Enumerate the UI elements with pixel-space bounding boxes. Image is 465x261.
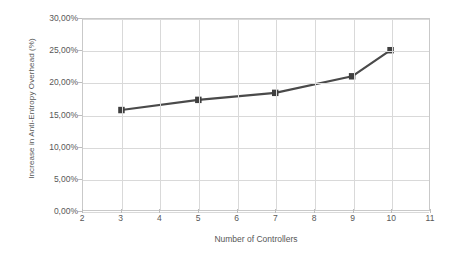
x-axis-tick-label: 8 (312, 213, 317, 223)
gridline-horizontal (83, 148, 429, 149)
gridline-horizontal (83, 51, 429, 52)
data-series-line (83, 19, 429, 210)
gridline-horizontal (83, 83, 429, 84)
x-axis-tick-mark (121, 209, 122, 213)
gridline-vertical (160, 19, 161, 210)
x-axis-tick-label: 5 (196, 213, 201, 223)
gridline-vertical (238, 19, 239, 210)
x-axis-tick-label: 4 (157, 213, 162, 223)
gridline-vertical (392, 19, 393, 210)
x-axis-title: Number of Controllers (82, 234, 430, 244)
y-axis-tick-label: 25,00% (34, 45, 78, 55)
y-axis-tick-label: 30,00% (34, 13, 78, 23)
y-axis-tick-label: 0,00% (34, 206, 78, 216)
y-axis-tick-label: 20,00% (34, 77, 78, 87)
chart-container: Increase in Anti-Entropy Overhead (%) 0,… (0, 0, 465, 261)
x-axis-tick-mark (198, 209, 199, 213)
gridline-vertical (276, 19, 277, 210)
x-axis-tick-mark (391, 209, 392, 213)
x-axis-tick-label: 7 (273, 213, 278, 223)
y-axis-tick-label: 10,00% (34, 142, 78, 152)
x-axis-tick-label: 3 (118, 213, 123, 223)
data-point-marker (272, 90, 278, 96)
x-axis-tick-mark (353, 209, 354, 213)
x-axis-tick-label: 11 (426, 213, 435, 223)
y-axis-tick-labels: 0,00%5,00%10,00%15,00%20,00%25,00%30,00% (34, 0, 78, 261)
gridline-vertical (354, 19, 355, 210)
x-axis-tick-mark (430, 209, 431, 213)
x-axis-tick-mark (82, 209, 83, 213)
x-axis-tick-label: 9 (350, 213, 355, 223)
x-axis-tick-label: 6 (234, 213, 239, 223)
x-axis-tick-mark (237, 209, 238, 213)
x-axis-tick-label: 10 (387, 213, 396, 223)
x-axis-tick-mark (275, 209, 276, 213)
plot-area (82, 18, 430, 211)
x-axis-tick-label: 2 (80, 213, 85, 223)
x-axis-tick-labels: 234567891011 (82, 213, 430, 229)
gridline-vertical (122, 19, 123, 210)
gridline-horizontal (83, 19, 429, 20)
x-axis-tick-mark (314, 209, 315, 213)
gridline-vertical (199, 19, 200, 210)
y-axis-tick-label: 15,00% (34, 110, 78, 120)
y-axis-tick-label: 5,00% (34, 174, 78, 184)
gridline-horizontal (83, 180, 429, 181)
series-polyline (121, 50, 390, 110)
x-axis-tick-mark (159, 209, 160, 213)
gridline-vertical (315, 19, 316, 210)
gridline-horizontal (83, 116, 429, 117)
